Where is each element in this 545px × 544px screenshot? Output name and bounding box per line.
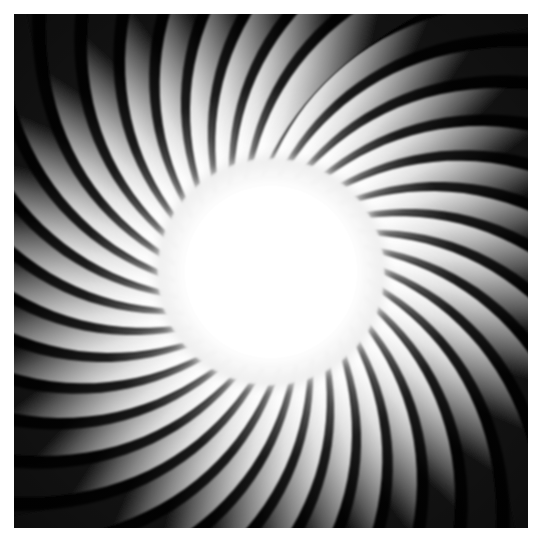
caption-strip xyxy=(14,530,528,542)
turbofan-illustration xyxy=(14,14,528,528)
fan-assembly xyxy=(14,14,528,528)
screenshot-root xyxy=(0,0,545,544)
engine-hub-core xyxy=(185,186,357,358)
turbofan-photo xyxy=(14,14,528,528)
